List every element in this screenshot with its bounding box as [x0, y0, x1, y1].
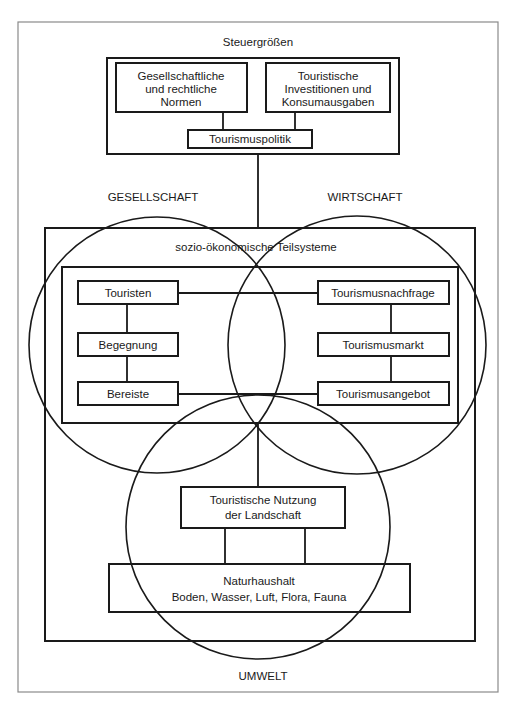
policy-label: Tourismuspolitik [209, 133, 291, 145]
socio-economic-title: sozio-ökonomische Teilsysteme [175, 241, 337, 253]
nature-elements: Boden, Wasser, Luft, Flora, Fauna [172, 591, 347, 603]
investments-line-2: Investitionen und [285, 83, 372, 95]
norms-line-3: Normen [161, 96, 202, 108]
norms-line-1: Gesellschaftliche [138, 70, 225, 82]
landscape-use-line-1: Touristische Nutzung [210, 494, 317, 506]
environment-label: UMWELT [239, 670, 288, 682]
demand-label: Tourismusnachfrage [331, 287, 435, 299]
norms-line-2: und rechtliche [145, 83, 217, 95]
tourism-system-diagram: Steuergrößen Gesellschaftliche und recht… [0, 0, 517, 713]
hosts-label: Bereiste [107, 388, 149, 400]
market-label: Tourismusmarkt [342, 339, 424, 351]
economy-label: WIRTSCHAFT [327, 191, 402, 203]
investments-line-3: Konsumausgaben [282, 96, 375, 108]
encounter-label: Begegnung [99, 339, 158, 351]
society-label: GESELLSCHAFT [108, 191, 199, 203]
supply-label: Tourismusangebot [336, 388, 431, 400]
tourists-label: Touristen [105, 287, 152, 299]
steering-title: Steuergrößen [223, 36, 293, 48]
nature-title: Naturhaushalt [223, 575, 295, 587]
landscape-use-line-2: der Landschaft [225, 509, 302, 521]
investments-line-1: Touristische [298, 70, 359, 82]
